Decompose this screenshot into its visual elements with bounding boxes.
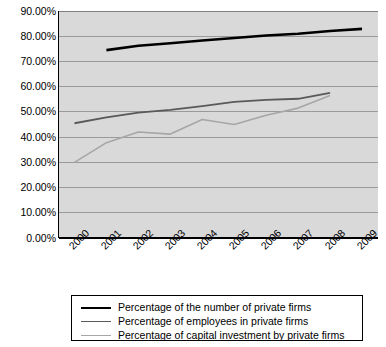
y-axis-tick-label: 30.00% bbox=[2, 157, 56, 167]
line-chart: 90.00%80.00%70.00%60.00%50.00%40.00%30.0… bbox=[0, 0, 386, 347]
legend-item: Percentage of capital investment by priv… bbox=[72, 328, 362, 341]
y-axis-tick-label: 90.00% bbox=[2, 6, 56, 16]
legend-item-label: Percentage of the number of private firm… bbox=[118, 301, 311, 313]
chart-legend: Percentage of the number of private firm… bbox=[71, 295, 363, 341]
legend-item: Percentage of the number of private firm… bbox=[72, 300, 362, 313]
y-axis-tick-label: 40.00% bbox=[2, 132, 56, 142]
y-axis-tick-label: 0.00% bbox=[2, 233, 56, 243]
legend-item-label: Percentage of employees in private firms bbox=[118, 315, 308, 327]
y-axis-tick-label: 60.00% bbox=[2, 81, 56, 91]
y-axis-tick-label: 50.00% bbox=[2, 106, 56, 116]
legend-item-label: Percentage of capital investment by priv… bbox=[118, 329, 344, 341]
plot-background bbox=[59, 11, 379, 238]
y-axis-tick-label: 80.00% bbox=[2, 31, 56, 41]
legend-item: Percentage of employees in private firms bbox=[72, 314, 362, 327]
legend-line-swatch bbox=[81, 315, 111, 327]
y-axis-tick-label: 20.00% bbox=[2, 182, 56, 192]
y-axis-tick-label: 10.00% bbox=[2, 207, 56, 217]
legend-line-swatch bbox=[81, 329, 111, 341]
y-axis-tick-labels: 90.00%80.00%70.00%60.00%50.00%40.00%30.0… bbox=[0, 0, 56, 250]
legend-line-swatch bbox=[81, 301, 111, 313]
y-axis-tick-label: 70.00% bbox=[2, 56, 56, 66]
